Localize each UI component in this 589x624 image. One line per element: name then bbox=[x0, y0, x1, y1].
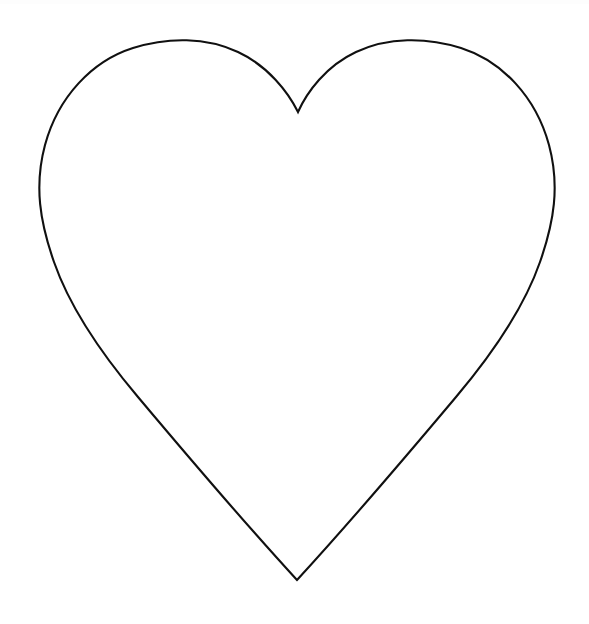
drawing-canvas bbox=[0, 0, 589, 624]
heart-outline-drawing bbox=[0, 0, 589, 624]
canvas-background bbox=[0, 0, 589, 624]
